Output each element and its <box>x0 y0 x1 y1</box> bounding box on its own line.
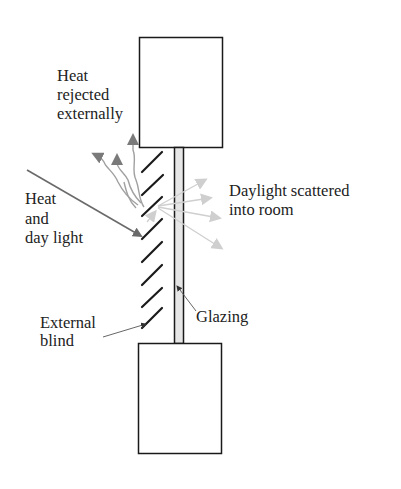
blind-leader-line <box>103 324 146 337</box>
heat-rejected-arrows <box>94 136 144 208</box>
lower-wall-block <box>139 344 222 454</box>
glazing-label: Glazing <box>196 307 248 326</box>
glazing-pane <box>175 148 184 344</box>
daylight-scattered-label: Daylight scattered into room <box>229 181 354 219</box>
external-blind-diagram: Heat rejected externally Heat and day li… <box>0 0 401 489</box>
external-blind-slats <box>142 152 163 328</box>
upper-wall-block <box>140 38 223 148</box>
external-blind-label: External blind <box>40 313 100 350</box>
heat-rejected-label: Heat rejected externally <box>57 66 124 123</box>
